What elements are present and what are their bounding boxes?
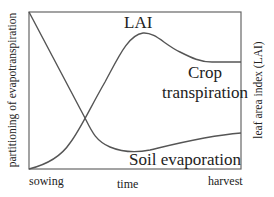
evapotranspiration-partition-diagram: LAI Crop transpiration Soil evaporation … (0, 0, 274, 197)
crop-transpiration-line1: Crop (162, 63, 248, 83)
x-tick-harvest: harvest (208, 175, 243, 187)
lai-label: LAI (124, 14, 152, 31)
x-axis-title: time (117, 178, 138, 190)
crop-transpiration-label: Crop transpiration (162, 63, 248, 103)
y-axis-right-title: leaf area index (LAI) (253, 41, 265, 138)
crop-transpiration-line2: transpiration (162, 83, 248, 103)
soil-evaporation-label: Soil evaporation (129, 151, 241, 168)
y-axis-left-title: partitioning of evapotranspiration (7, 13, 19, 168)
x-tick-sowing: sowing (29, 175, 64, 187)
